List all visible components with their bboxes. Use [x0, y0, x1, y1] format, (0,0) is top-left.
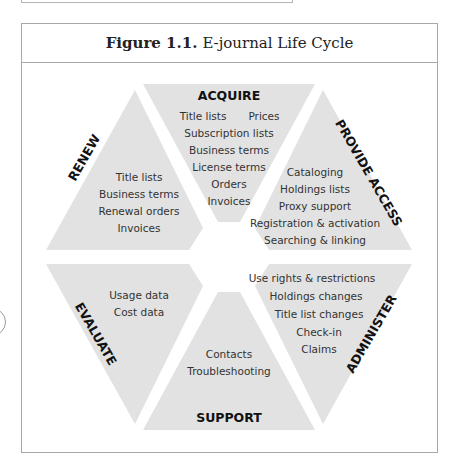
- renew-item: Renewal orders: [98, 205, 179, 217]
- acquire-item: Invoices: [207, 195, 250, 207]
- provide-access-item: Holdings lists: [280, 183, 350, 195]
- administer-item: Claims: [301, 343, 336, 355]
- provide-access-item: Searching & linking: [264, 234, 366, 246]
- administer-item: Check-in: [296, 326, 342, 338]
- administer-item: Holdings changes: [269, 290, 362, 302]
- renew-item: Invoices: [117, 222, 160, 234]
- support-item: Contacts: [206, 348, 252, 360]
- acquire-item: Title lists: [179, 110, 227, 122]
- acquire-item: License terms: [192, 161, 265, 173]
- acquire-item: Business terms: [189, 144, 269, 156]
- acquire-item: Orders: [211, 178, 246, 190]
- provide-access-item: Registration & activation: [250, 217, 380, 229]
- renew-item: Title lists: [115, 171, 163, 183]
- label-acquire: ACQUIRE: [198, 88, 260, 103]
- label-support: SUPPORT: [196, 410, 262, 425]
- acquire-item: Prices: [248, 110, 279, 122]
- evaluate-item: Usage data: [109, 289, 169, 301]
- life-cycle-hexagon-diagram: ACQUIRE Title lists Prices Subscription …: [0, 0, 458, 468]
- provide-access-item: Cataloging: [287, 166, 344, 178]
- acquire-item: Subscription lists: [184, 127, 273, 139]
- administer-item: Use rights & restrictions: [249, 272, 376, 284]
- support-item: Troubleshooting: [186, 365, 270, 377]
- provide-access-item: Proxy support: [279, 200, 351, 212]
- administer-item: Title list changes: [274, 308, 364, 320]
- renew-item: Business terms: [99, 188, 179, 200]
- evaluate-item: Cost data: [114, 306, 164, 318]
